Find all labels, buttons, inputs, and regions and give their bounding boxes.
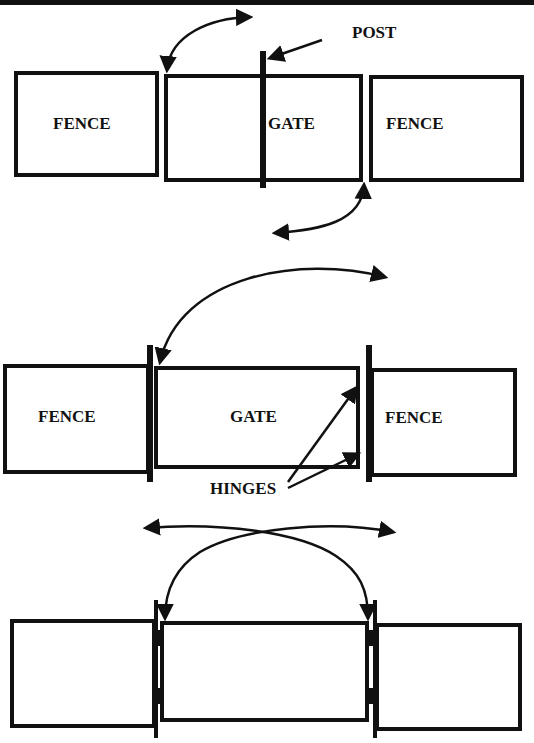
fence-right-3 bbox=[377, 625, 520, 729]
fence-left-label-1: FENCE bbox=[53, 114, 111, 133]
panel-2: FENCE GATE FENCE HINGES bbox=[5, 269, 515, 498]
hinge-right-upper bbox=[367, 630, 374, 646]
hinge-pointer-lower bbox=[288, 454, 358, 488]
fence-left-label-2: FENCE bbox=[38, 407, 96, 426]
post-label: POST bbox=[352, 23, 397, 42]
gate-label-1: GATE bbox=[268, 114, 315, 133]
hinge-left-upper bbox=[156, 630, 163, 646]
gate-3 bbox=[162, 623, 367, 720]
swing-arrow-2 bbox=[160, 269, 385, 362]
hinge-right-lower bbox=[367, 688, 374, 704]
hinge-left-lower bbox=[156, 688, 163, 704]
swing-arrow-top bbox=[167, 17, 250, 70]
post-pointer-arrow bbox=[270, 40, 322, 58]
swing-arrow-bottom bbox=[275, 185, 364, 233]
panel-1: FENCE GATE FENCE POST bbox=[16, 17, 522, 233]
fence-left-3 bbox=[12, 621, 154, 726]
hinges-label: HINGES bbox=[210, 479, 276, 498]
fence-right-label-2: FENCE bbox=[385, 408, 443, 427]
gate-diagram: FENCE GATE FENCE POST FENCE GATE FENCE H… bbox=[0, 0, 534, 743]
panel-3 bbox=[12, 526, 520, 738]
gate-label-2: GATE bbox=[230, 407, 277, 426]
swing-arrow-left-leaf bbox=[165, 526, 393, 618]
fence-right-label-1: FENCE bbox=[386, 114, 444, 133]
